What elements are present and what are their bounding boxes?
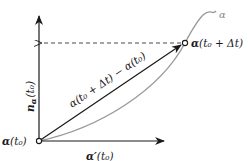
point-target-label: α(t₀ + Δt) bbox=[191, 37, 243, 49]
point-origin-label: α(t₀) bbox=[2, 135, 27, 147]
point-origin-marker bbox=[36, 138, 41, 143]
tangent-vector-label-arg: (t₀) bbox=[97, 150, 114, 161]
normal-vector-label-arg: (t₀) bbox=[24, 81, 36, 98]
normal-vector-label: nα(t₀) bbox=[24, 81, 38, 112]
point-target-label-arg: (t₀ + Δt) bbox=[199, 37, 243, 49]
point-origin-label-main: α bbox=[2, 135, 10, 147]
point-origin-label-arg: (t₀) bbox=[10, 135, 27, 147]
point-target-marker bbox=[182, 40, 187, 45]
tangent-vector-label-main: α′ bbox=[86, 150, 97, 161]
curve-alpha-label: α bbox=[219, 9, 226, 20]
curve-alpha bbox=[39, 11, 216, 141]
tangent-vector-label: α′(t₀) bbox=[86, 150, 113, 161]
diagram-canvas: α α(t₀ + Δt) α(t₀) α′(t₀) nα(t₀) α(t₀ + … bbox=[0, 0, 248, 161]
normal-vector-label-sub: α bbox=[29, 98, 38, 104]
point-target-label-main: α bbox=[191, 37, 199, 49]
secant-vector-label: α(t₀ + Δt) − α(t₀) bbox=[66, 49, 147, 109]
normal-vector-label-main: n bbox=[24, 104, 36, 112]
secant-vector-arrow bbox=[39, 45, 181, 141]
